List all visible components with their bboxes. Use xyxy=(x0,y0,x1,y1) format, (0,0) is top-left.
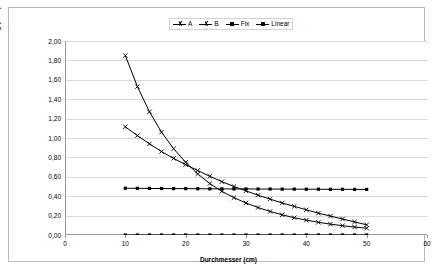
x-tick-mark xyxy=(306,235,307,238)
data-point-marker xyxy=(172,187,175,190)
series-a xyxy=(123,53,369,230)
data-point-marker xyxy=(281,233,284,235)
data-point-marker xyxy=(124,187,127,190)
legend-entry-fix[interactable]: Fix xyxy=(226,20,250,28)
legend-entry-a[interactable]: A xyxy=(173,20,192,28)
x-tick-mark xyxy=(125,235,126,238)
data-point-marker xyxy=(317,233,320,235)
data-point-marker xyxy=(160,233,163,235)
x-axis-title: Durchmesser (cm) xyxy=(9,256,439,263)
data-point-marker xyxy=(305,188,308,191)
x-tick-mark xyxy=(367,235,368,238)
series-linear xyxy=(124,233,369,235)
data-point-marker xyxy=(293,233,296,235)
legend-entry-b[interactable]: B xyxy=(199,20,218,28)
y-tick-label: 1,00 xyxy=(29,135,61,142)
data-point-marker xyxy=(208,187,211,190)
data-point-marker xyxy=(232,233,235,235)
legend-label-fix: Fix xyxy=(241,20,250,28)
legend-marker-star-icon xyxy=(199,21,212,28)
data-point-marker xyxy=(341,188,344,191)
legend-marker-star-icon xyxy=(173,21,186,28)
chart-legend: A B Fix Linear xyxy=(169,18,293,30)
y-tick-label: 1,60 xyxy=(29,76,61,83)
data-point-marker xyxy=(196,187,199,190)
data-point-marker xyxy=(172,233,175,235)
data-point-marker xyxy=(269,233,272,235)
data-point-marker xyxy=(184,187,187,190)
data-point-marker xyxy=(256,233,259,235)
data-point-marker xyxy=(341,233,344,235)
data-point-marker xyxy=(305,233,308,235)
data-point-marker xyxy=(136,233,139,235)
y-tick-label: 2,00 xyxy=(29,38,61,45)
x-tick-mark xyxy=(186,235,187,238)
legend-label-a: A xyxy=(188,20,192,28)
y-tick-label: 0,00 xyxy=(29,232,61,239)
series-layer xyxy=(65,41,427,235)
series-line xyxy=(125,56,366,229)
data-point-marker xyxy=(329,188,332,191)
data-point-marker xyxy=(256,187,259,190)
data-point-marker xyxy=(208,233,211,235)
y-tick-label: 1,20 xyxy=(29,115,61,122)
data-point-marker xyxy=(244,187,247,190)
data-point-marker xyxy=(269,187,272,190)
y-tick-label: 0,20 xyxy=(29,212,61,219)
data-point-marker xyxy=(220,187,223,190)
y-tick-label: 1,40 xyxy=(29,96,61,103)
x-tick-mark xyxy=(427,235,428,238)
data-point-marker xyxy=(136,187,139,190)
legend-label-linear: Linear xyxy=(271,20,289,28)
data-point-marker xyxy=(293,188,296,191)
x-tick-label: 10 xyxy=(113,240,137,247)
x-tick-mark xyxy=(65,235,66,238)
x-tick-label: 40 xyxy=(294,240,318,247)
data-point-marker xyxy=(365,188,368,191)
legend-marker-square-icon xyxy=(256,21,269,28)
data-point-marker xyxy=(317,188,320,191)
chart-frame: A B Fix Linear Erlösveränderung (€/m³) D… xyxy=(8,7,425,262)
data-point-marker xyxy=(220,233,223,235)
legend-label-b: B xyxy=(214,20,218,28)
x-tick-label: 30 xyxy=(234,240,258,247)
legend-entry-linear[interactable]: Linear xyxy=(256,20,289,28)
series-fix xyxy=(124,187,369,191)
series-line xyxy=(125,127,366,225)
data-point-marker xyxy=(353,233,356,235)
y-tick-label: 0,40 xyxy=(29,193,61,200)
data-point-marker xyxy=(244,233,247,235)
x-tick-label: 50 xyxy=(355,240,379,247)
data-point-marker xyxy=(353,188,356,191)
data-point-marker xyxy=(232,187,235,190)
data-point-marker xyxy=(365,233,368,235)
data-point-marker xyxy=(124,233,127,235)
y-tick-label: 0,80 xyxy=(29,154,61,161)
x-tick-label: 0 xyxy=(53,240,77,247)
data-point-marker xyxy=(329,233,332,235)
x-tick-label: 20 xyxy=(174,240,198,247)
y-tick-label: 1,80 xyxy=(29,57,61,64)
legend-marker-square-icon xyxy=(226,21,239,28)
x-tick-mark xyxy=(246,235,247,238)
data-point-marker xyxy=(184,233,187,235)
data-point-marker xyxy=(160,187,163,190)
data-point-marker xyxy=(281,188,284,191)
data-point-marker xyxy=(148,233,151,235)
x-tick-label: 60 xyxy=(415,240,439,247)
data-point-marker xyxy=(196,233,199,235)
y-tick-label: 0,60 xyxy=(29,173,61,180)
data-point-marker xyxy=(148,187,151,190)
series-b xyxy=(123,125,369,227)
